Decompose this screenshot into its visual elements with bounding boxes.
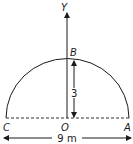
span-dimension: 9 m [4, 133, 131, 144]
point-label-c: C [3, 122, 10, 133]
point-label-o: O [61, 122, 69, 133]
height-dimension: 3 [71, 61, 77, 117]
point-label-a: A [123, 122, 131, 133]
height-label: 3 [71, 88, 77, 99]
span-label: 9 m [57, 133, 76, 144]
semicircle-diagram: Y 3 B C O A 9 m [0, 0, 133, 144]
y-axis: Y [61, 2, 68, 118]
point-label-b: B [70, 47, 77, 58]
y-axis-label: Y [61, 2, 68, 13]
